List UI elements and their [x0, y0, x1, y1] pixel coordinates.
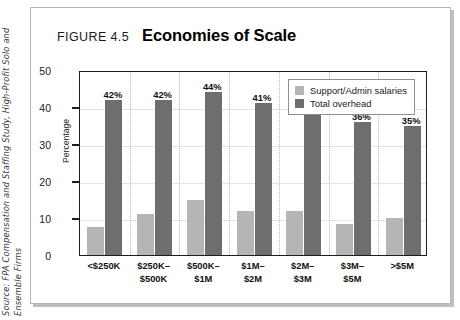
bar-value-label: 41%	[246, 92, 279, 103]
bar-support-admin	[286, 211, 303, 255]
bar-total-overhead	[155, 100, 172, 255]
bar-support-admin	[87, 227, 104, 255]
source-credit-text: Source: FPA Compensation and Staffing St…	[0, 16, 24, 320]
figure-frame: FIGURE 4.5 Economies of Scale Percentage…	[30, 7, 451, 304]
x-axis-tick-label-line: $2M	[228, 273, 278, 286]
bar-total-overhead	[255, 103, 272, 255]
y-axis-tick-label: 30	[25, 139, 51, 151]
x-axis-tick-label-line: $500K–	[178, 260, 228, 273]
category-separator	[279, 72, 280, 255]
x-axis-tick-label: $1M–$2M	[228, 260, 278, 285]
x-axis-tick-label: $2M–$3M	[278, 260, 328, 285]
legend-item: Support/Admin salaries	[295, 84, 407, 97]
y-axis-tick-label: 20	[25, 176, 51, 188]
x-axis-tick-label: <$250K	[79, 260, 129, 273]
legend-label: Support/Admin salaries	[310, 85, 407, 96]
x-axis-tick-label: $3M–$5M	[328, 260, 378, 285]
gridline	[80, 146, 426, 147]
x-axis-tick-label: >$5M	[377, 260, 427, 273]
bar-support-admin	[386, 218, 403, 255]
x-axis-tick-label: $500K–$1M	[178, 260, 228, 285]
bar-value-label: 42%	[96, 89, 129, 100]
legend-item: Total overhead	[295, 97, 407, 110]
y-axis-tick-label: 0	[25, 250, 51, 262]
x-axis-tick-label-line: $5M	[328, 273, 378, 286]
x-axis-tick-label-line: $3M	[278, 273, 328, 286]
bar-total-overhead	[304, 114, 321, 255]
bar-value-label: 42%	[146, 89, 179, 100]
bar-total-overhead	[205, 92, 222, 255]
category-separator	[130, 72, 131, 255]
category-separator	[229, 72, 230, 255]
x-axis-tick-label: $250K–$500K	[129, 260, 179, 285]
x-axis-tick-label-line: $2M–	[278, 260, 328, 273]
gridline	[80, 183, 426, 184]
bar-support-admin	[187, 200, 204, 256]
y-axis-tick-label: 50	[25, 65, 51, 77]
bar-value-label: 35%	[395, 115, 428, 126]
y-axis-title: Percentage	[61, 101, 71, 181]
x-axis-tick-label-line: $3M–	[328, 260, 378, 273]
x-axis-tick-label-line: $1M	[178, 273, 228, 286]
source-credit: Source: FPA Compensation and Staffing St…	[0, 0, 26, 320]
bar-support-admin	[137, 214, 154, 255]
x-axis-tick-label-line: $500K	[129, 273, 179, 286]
bar-value-label: 44%	[196, 81, 229, 92]
x-axis-tick-label-line: $250K–	[129, 260, 179, 273]
legend-label: Total overhead	[310, 98, 372, 109]
y-axis-tick-label: 40	[25, 102, 51, 114]
bar-total-overhead	[354, 122, 371, 255]
bar-support-admin	[336, 224, 353, 255]
bar-chart: Percentage 01020304050 42%42%44%41%38%36…	[31, 8, 452, 305]
category-separator	[179, 72, 180, 255]
bar-total-overhead	[404, 126, 421, 256]
bar-total-overhead	[105, 100, 122, 255]
x-axis-tick-label-line: <$250K	[79, 260, 129, 273]
x-axis-tick-label-line: $1M–	[228, 260, 278, 273]
legend-swatch-icon	[295, 86, 304, 95]
bar-support-admin	[237, 211, 254, 255]
legend-swatch-icon	[295, 99, 304, 108]
x-axis-tick-label-line: >$5M	[377, 260, 427, 273]
y-axis-tick-label: 10	[25, 213, 51, 225]
chart-legend: Support/Admin salariesTotal overhead	[288, 79, 415, 115]
